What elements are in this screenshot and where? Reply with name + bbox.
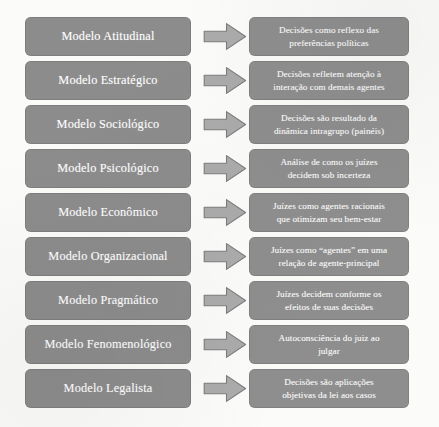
description-box: Decisões como reflexo daspreferências po… (249, 17, 409, 56)
model-box: Modelo Legalista (25, 369, 191, 408)
diagram-row: Modelo SociológicoDecisões são resultado… (0, 105, 439, 144)
model-label: Modelo Psicológico (57, 161, 158, 176)
model-box: Modelo Pragmático (25, 281, 191, 320)
diagram-row: Modelo LegalistaDecisões são aplicaçõeso… (0, 369, 439, 408)
model-label: Modelo Econômico (58, 205, 158, 220)
diagram-row: Modelo EconômicoJuízes como agentes raci… (0, 193, 439, 232)
description-box: Análise de como os juízesdecidem sob inc… (249, 149, 409, 188)
description-box: Decisões são aplicaçõesobjetivas da lei … (249, 369, 409, 408)
right-arrow-icon (203, 66, 247, 95)
description-label: Análise de como os juízesdecidem sob inc… (280, 156, 377, 180)
right-arrow-icon (203, 330, 247, 359)
model-label: Modelo Sociológico (57, 117, 160, 132)
model-box: Modelo Econômico (25, 193, 191, 232)
model-box: Modelo Atitudinal (25, 17, 191, 56)
diagram-row: Modelo FenomenológicoAutoconsciência do … (0, 325, 439, 364)
model-label: Modelo Fenomenológico (44, 337, 171, 352)
description-label: Juízes como “agentes” em umarelação de a… (271, 244, 387, 268)
right-arrow-icon (203, 110, 247, 139)
description-box: Juízes como agentes racionaisque otimiza… (249, 193, 409, 232)
right-arrow-icon (203, 154, 247, 183)
model-label: Modelo Pragmático (58, 293, 158, 308)
description-label: Juízes como agentes racionaisque otimiza… (273, 200, 385, 224)
model-box: Modelo Estratégico (25, 61, 191, 100)
models-flow-diagram: Modelo AtitudinalDecisões como reflexo d… (0, 0, 439, 427)
model-box: Modelo Psicológico (25, 149, 191, 188)
diagram-row: Modelo PsicológicoAnálise de como os juí… (0, 149, 439, 188)
description-box: Decisões são resultado dadinâmica intrag… (249, 105, 409, 144)
model-label: Modelo Organizacional (48, 249, 167, 264)
diagram-row: Modelo EstratégicoDecisões refletem aten… (0, 61, 439, 100)
model-label: Modelo Atitudinal (61, 29, 154, 44)
description-label: Autoconsciência do juiz aojulgar (278, 332, 379, 356)
model-label: Modelo Legalista (64, 381, 153, 396)
description-box: Juízes como “agentes” em umarelação de a… (249, 237, 409, 276)
model-box: Modelo Fenomenológico (25, 325, 191, 364)
diagram-row: Modelo PragmáticoJuízes decidem conforme… (0, 281, 439, 320)
description-box: Decisões refletem atenção àinteração com… (249, 61, 409, 100)
model-box: Modelo Sociológico (25, 105, 191, 144)
description-box: Autoconsciência do juiz aojulgar (249, 325, 409, 364)
model-label: Modelo Estratégico (58, 73, 157, 88)
description-label: Juízes decidem conforme osefeitos de sua… (276, 288, 381, 312)
description-label: Decisões são aplicaçõesobjetivas da lei … (282, 376, 376, 400)
diagram-row: Modelo AtitudinalDecisões como reflexo d… (0, 17, 439, 56)
description-label: Decisões são resultado dadinâmica intrag… (274, 112, 384, 136)
description-label: Decisões como reflexo daspreferências po… (279, 24, 379, 48)
right-arrow-icon (203, 286, 247, 315)
right-arrow-icon (203, 198, 247, 227)
diagram-row: Modelo OrganizacionalJuízes como “agente… (0, 237, 439, 276)
description-box: Juízes decidem conforme osefeitos de sua… (249, 281, 409, 320)
right-arrow-icon (203, 374, 247, 403)
model-box: Modelo Organizacional (25, 237, 191, 276)
right-arrow-icon (203, 22, 247, 51)
right-arrow-icon (203, 242, 247, 271)
description-label: Decisões refletem atenção àinteração com… (273, 68, 384, 92)
